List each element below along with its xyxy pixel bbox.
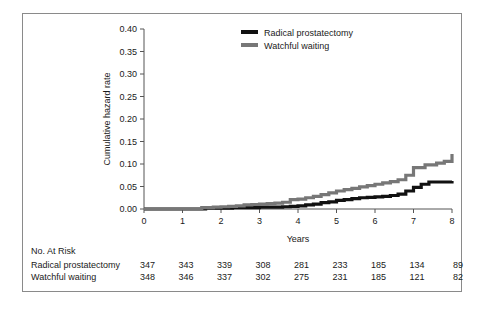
legend-label-2: Watchful waiting bbox=[264, 41, 329, 51]
risk-table: No. At Risk Radical prostatectomy 347343… bbox=[23, 246, 463, 293]
x-axis-tick-label: 7 bbox=[411, 216, 416, 226]
x-axis-tick-label: 3 bbox=[257, 216, 262, 226]
risk-cell: 281 bbox=[287, 260, 309, 270]
x-axis-title: Years bbox=[287, 234, 310, 244]
y-axis-tick-label: 0.15 bbox=[119, 137, 137, 147]
x-axis-tick-label: 0 bbox=[141, 216, 146, 226]
y-axis-tick-label: 0.40 bbox=[119, 24, 137, 34]
risk-cell: 185 bbox=[364, 272, 386, 282]
y-axis-tick-label: 0.05 bbox=[119, 182, 137, 192]
risk-cell: 82 bbox=[441, 272, 463, 282]
risk-table-row: Radical prostatectomy 347343339308281233… bbox=[23, 260, 463, 272]
risk-cell: 233 bbox=[326, 260, 348, 270]
risk-cell: 308 bbox=[249, 260, 271, 270]
risk-row-label: Watchful waiting bbox=[31, 272, 96, 282]
risk-cell: 121 bbox=[403, 272, 425, 282]
x-axis-tick-label: 2 bbox=[218, 216, 223, 226]
risk-cell: 339 bbox=[210, 260, 232, 270]
risk-table-heading: No. At Risk bbox=[31, 246, 76, 256]
legend-label-1: Radical prostatectomy bbox=[264, 28, 354, 38]
risk-cell: 302 bbox=[249, 272, 271, 282]
x-axis-tick-label: 8 bbox=[449, 216, 454, 226]
risk-cell: 231 bbox=[326, 272, 348, 282]
y-axis-tick-label: 0.30 bbox=[119, 69, 137, 79]
x-axis-tick-label: 4 bbox=[295, 216, 300, 226]
risk-cell: 347 bbox=[133, 260, 155, 270]
x-axis-tick-label: 1 bbox=[180, 216, 185, 226]
risk-cell: 134 bbox=[403, 260, 425, 270]
risk-cell: 337 bbox=[210, 272, 232, 282]
figure-frame: 0.000.050.100.150.200.250.300.350.400123… bbox=[22, 13, 462, 292]
series-line-2 bbox=[144, 154, 452, 209]
risk-row-label: Radical prostatectomy bbox=[31, 260, 120, 270]
risk-cell: 343 bbox=[172, 260, 194, 270]
y-axis-tick-label: 0.35 bbox=[119, 47, 137, 57]
y-axis-tick-label: 0.00 bbox=[119, 204, 137, 214]
risk-cell: 185 bbox=[364, 260, 386, 270]
cumulative-hazard-chart: 0.000.050.100.150.200.250.300.350.400123… bbox=[23, 14, 463, 246]
y-axis-title: Cumulative hazard rate bbox=[102, 72, 112, 165]
risk-cell: 346 bbox=[172, 272, 194, 282]
risk-cell: 275 bbox=[287, 272, 309, 282]
y-axis-tick-label: 0.20 bbox=[119, 114, 137, 124]
series-line-1 bbox=[144, 181, 452, 209]
x-axis-tick-label: 6 bbox=[372, 216, 377, 226]
risk-cell: 348 bbox=[133, 272, 155, 282]
risk-cell: 89 bbox=[441, 260, 463, 270]
y-axis-tick-label: 0.10 bbox=[119, 159, 137, 169]
y-axis-tick-label: 0.25 bbox=[119, 92, 137, 102]
risk-table-row: Watchful waiting 34834633730227523118512… bbox=[23, 272, 463, 284]
x-axis-tick-label: 5 bbox=[334, 216, 339, 226]
